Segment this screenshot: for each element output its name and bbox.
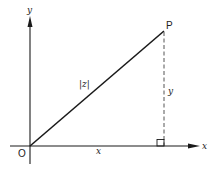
point-p-label: P [166, 20, 173, 31]
origin-label: O [18, 148, 26, 159]
right-angle-marker [157, 140, 164, 147]
modulus-line [30, 31, 164, 146]
x-axis [10, 144, 200, 149]
y-axis-arrow-icon [28, 16, 33, 27]
horizontal-segment-label: x [96, 146, 101, 156]
modulus-label: |z| [79, 79, 90, 90]
x-axis-arrow-icon [188, 144, 200, 149]
y-axis-label: y [26, 5, 33, 15]
x-axis-label: x [202, 141, 207, 151]
y-axis [28, 16, 33, 164]
vertical-segment-label: y [167, 86, 174, 96]
argand-diagram: y x O P |z| y x [0, 0, 214, 171]
